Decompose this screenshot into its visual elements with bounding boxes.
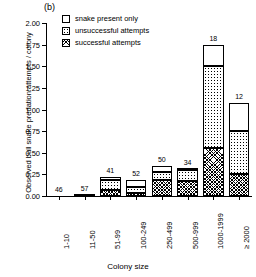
x-axis-tick [110,196,111,200]
x-axis-tick-label: 1000-1999 [216,213,225,249]
y-axis-tick-label: 1.00 [0,110,46,111]
x-axis-tick-label: 1-10 [62,234,71,249]
legend-label-present: snake present only [75,14,138,23]
x-axis-tick-label: 11-50 [88,230,97,249]
y-axis-tick-label: 0.75 [0,131,46,132]
x-axis-tick [162,196,163,200]
sample-size-label: 34 [171,159,204,166]
bar-250-499[interactable] [152,166,173,196]
bar-segment-successful [177,181,198,196]
y-axis-tick-label: 0.25 [0,174,46,175]
x-axis-line [46,196,252,197]
bar-segment-present [100,177,121,180]
x-axis-tick-label: ≥ 2000 [242,226,251,249]
white-square-icon [62,15,70,23]
bar-segment-successful [74,194,95,196]
y-axis-tick-label: 1.75 [0,45,46,46]
sample-size-label: 12 [223,93,256,100]
bar-51-99[interactable] [100,177,121,196]
panel-label: (b) [44,2,55,12]
x-axis-tick-label: 250-499 [165,221,174,249]
x-axis-tick [239,196,240,200]
bar-2000[interactable] [229,103,250,196]
x-axis-tick [213,196,214,200]
bar-segment-successful [203,148,224,196]
x-axis-tick [136,196,137,200]
bar-segment-successful [229,174,250,196]
bar-segment-unsuccessful [152,172,173,180]
bar-1000-1999[interactable] [203,45,224,196]
bar-segment-successful [100,190,121,196]
x-axis-tick-label: 100-249 [139,221,148,249]
bar-500-999[interactable] [177,169,198,196]
bar-segment-present [126,180,147,188]
x-axis-tick [85,196,86,200]
x-axis-tick [188,196,189,200]
y-axis-tick-label: 0.50 [0,153,46,154]
bar-segment-unsuccessful [177,170,198,181]
bar-segment-present [229,103,250,132]
bar-segment-successful [152,180,173,196]
bar-11-50[interactable] [74,195,95,196]
y-axis-tick-label: 1.50 [0,66,46,67]
bar-segment-present [152,166,173,172]
sample-size-label: 18 [197,35,230,42]
bar-segment-present [177,168,198,170]
y-axis-tick-label: 1.25 [0,88,46,89]
bar-segment-unsuccessful [229,131,250,173]
x-axis-tick [59,196,60,200]
x-axis-tick-label: 51-99 [113,230,122,249]
x-axis-tick-label: 500-999 [191,221,200,249]
bar-segment-present [203,45,224,67]
bar-segment-successful [126,193,147,196]
chart-container: (b) snake present only unsuccessful atte… [0,0,256,277]
sample-size-label: 52 [120,170,153,177]
x-axis-label: Colony size [0,262,256,271]
bar-segment-unsuccessful [100,180,121,190]
bar-series-area: 4657415250341812 [46,23,252,196]
bar-100-249[interactable] [126,180,147,196]
bar-segment-unsuccessful [203,66,224,148]
sample-size-label: 57 [68,185,101,192]
bar-segment-unsuccessful [126,187,147,193]
y-axis-tick-label: 0.00 [0,196,46,197]
y-axis-tick-label: 2.00 [0,23,46,24]
